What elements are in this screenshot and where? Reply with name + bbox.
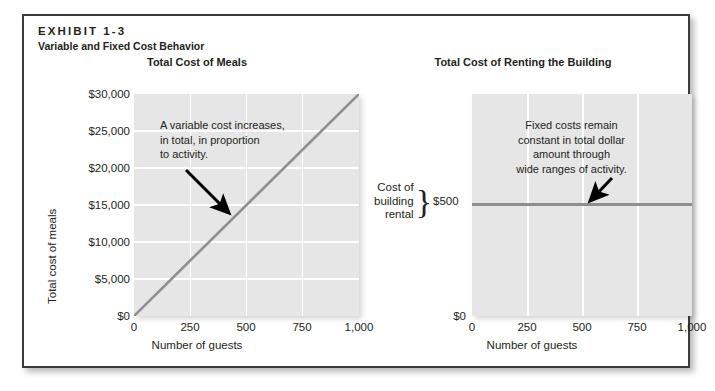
exhibit-frame: EXHIBIT 1-3 Variable and Fixed Cost Beha… <box>22 14 690 368</box>
y-tick-left-2: $10,000 <box>88 236 130 248</box>
annotation-left-line-3: to activity. <box>160 147 310 162</box>
bracket-label-line-1: Cost of <box>374 181 414 195</box>
y-tick-left-6: $30,000 <box>88 88 130 100</box>
annotation-right-line-3: amount through <box>479 147 664 162</box>
annotation-right-line-4: wide ranges of activity. <box>479 162 664 177</box>
series-fixed-cost <box>472 203 692 206</box>
y-tick-left-5: $25,000 <box>88 125 130 137</box>
x-tick-right-0: 0 <box>469 321 475 333</box>
bracket-label-line-3: rental <box>374 208 414 222</box>
annotation-right: Fixed costs remain constant in total dol… <box>479 118 664 176</box>
annotation-arrow-left <box>180 164 250 238</box>
y-tick-right-0: $0 <box>426 310 466 322</box>
x-tick-right-2: 500 <box>572 321 591 333</box>
bracket-value: $500 <box>433 195 459 207</box>
bracket-label: Cost of building rental <box>374 181 414 222</box>
annotation-left-line-2: in total, in proportion <box>160 133 310 148</box>
chart-total-cost-of-meals: Total Cost of Meals Total cost of meals … <box>32 56 362 356</box>
annotation-right-line-1: Fixed costs remain <box>479 118 664 133</box>
x-axis-label-right: Number of guests <box>422 339 642 351</box>
x-tick-left-0: 0 <box>131 321 137 333</box>
y-axis-ticks-left: $0 $5,000 $10,000 $15,000 $20,000 $25,00… <box>38 94 130 316</box>
chart-title-right: Total Cost of Renting the Building <box>362 56 684 68</box>
curly-brace-icon: } <box>416 188 432 215</box>
bracket-cost-of-building-rental: Cost of building rental } $500 <box>374 181 459 222</box>
annotation-right-line-2: constant in total dollar <box>479 133 664 148</box>
y-tick-left-0: $0 <box>117 310 130 322</box>
exhibit-subtitle: Variable and Fixed Cost Behavior <box>38 40 204 52</box>
chart-total-cost-of-renting: Total Cost of Renting the Building Cost … <box>362 56 684 356</box>
y-tick-left-4: $20,000 <box>88 162 130 174</box>
x-tick-right-3: 750 <box>627 321 646 333</box>
exhibit-number: EXHIBIT 1-3 <box>38 25 204 37</box>
exhibit-header: EXHIBIT 1-3 Variable and Fixed Cost Beha… <box>38 25 204 52</box>
annotation-left: A variable cost increases, in total, in … <box>160 118 310 162</box>
x-tick-right-1: 250 <box>517 321 536 333</box>
x-tick-left-3: 750 <box>292 321 311 333</box>
bracket-label-line-2: building <box>374 195 414 209</box>
x-tick-left-2: 500 <box>236 321 255 333</box>
y-tick-left-1: $5,000 <box>95 273 130 285</box>
chart-title-left: Total Cost of Meals <box>32 56 362 68</box>
annotation-arrow-right <box>584 174 634 228</box>
x-axis-label-left: Number of guests <box>82 339 312 351</box>
x-tick-right-4: 1,000 <box>678 321 707 333</box>
x-tick-left-1: 250 <box>180 321 199 333</box>
y-tick-left-3: $15,000 <box>88 199 130 211</box>
annotation-left-line-1: A variable cost increases, <box>160 118 310 133</box>
